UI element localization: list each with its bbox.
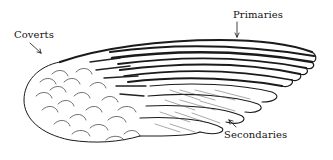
secondaries-label: Secondaries xyxy=(224,129,287,140)
coverts-arrow xyxy=(30,43,41,53)
coverts-label: Coverts xyxy=(14,29,54,40)
coverts-region xyxy=(24,62,140,142)
secondaries-region xyxy=(150,84,277,102)
wing-diagram: Coverts Primaries Secondaries xyxy=(0,0,333,160)
primaries-label: Primaries xyxy=(233,9,283,20)
